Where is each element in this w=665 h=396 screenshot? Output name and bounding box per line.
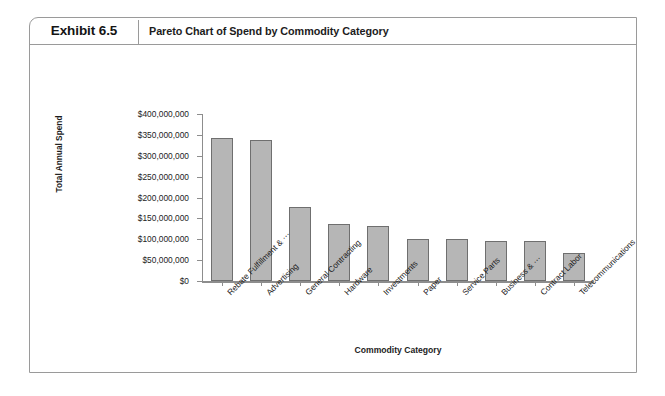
y-axis-tick: $0 [197, 281, 202, 282]
y-axis-tick: $300,000,000 [197, 156, 202, 157]
bar [446, 239, 468, 281]
header-divider [138, 20, 139, 44]
x-axis-tick-label: Telecommunications [577, 237, 637, 297]
y-axis-tick: $100,000,000 [197, 239, 202, 240]
x-axis-tick [261, 282, 262, 286]
y-axis-tick: $50,000,000 [197, 260, 202, 261]
y-axis-title: Total Annual Spend [54, 94, 64, 214]
y-axis-tick: $200,000,000 [197, 198, 202, 199]
x-axis-tick [378, 282, 379, 286]
y-axis-tick-label: $300,000,000 [138, 151, 189, 161]
exhibit-frame: Exhibit 6.5 Pareto Chart of Spend by Com… [29, 17, 637, 373]
bar-chart: Total Annual Spend $400,000,000$350,000,… [30, 45, 636, 372]
y-axis-tick-label: $50,000,000 [142, 255, 189, 265]
x-axis-tick [339, 282, 340, 286]
y-axis-tick-label: $350,000,000 [138, 130, 189, 140]
y-axis-tick-label: $200,000,000 [138, 193, 189, 203]
x-axis-tick [535, 282, 536, 286]
exhibit-title: Pareto Chart of Spend by Commodity Categ… [149, 18, 389, 44]
y-axis-tick-label: $100,000,000 [138, 234, 189, 244]
exhibit-header: Exhibit 6.5 Pareto Chart of Spend by Com… [30, 18, 636, 45]
y-axis-tick: $350,000,000 [197, 135, 202, 136]
y-axis-tick: $250,000,000 [197, 177, 202, 178]
x-axis-tick [496, 282, 497, 286]
y-axis-tick: $150,000,000 [197, 218, 202, 219]
x-axis-title: Commodity Category [202, 345, 594, 355]
x-axis-tick [574, 282, 575, 286]
y-axis-line [202, 114, 203, 282]
plot-area: $400,000,000$350,000,000$300,000,000$250… [202, 114, 594, 281]
bar [211, 138, 233, 281]
x-axis-tick [457, 282, 458, 286]
y-axis-tick-label: $0 [180, 276, 189, 286]
x-axis-tick [222, 282, 223, 286]
x-axis-tick [300, 282, 301, 286]
y-axis-tick-label: $150,000,000 [138, 213, 189, 223]
y-axis-tick-label: $250,000,000 [138, 172, 189, 182]
y-axis-tick: $400,000,000 [197, 114, 202, 115]
x-axis-tick [418, 282, 419, 286]
y-axis-tick-label: $400,000,000 [138, 109, 189, 119]
exhibit-number: Exhibit 6.5 [30, 18, 138, 44]
